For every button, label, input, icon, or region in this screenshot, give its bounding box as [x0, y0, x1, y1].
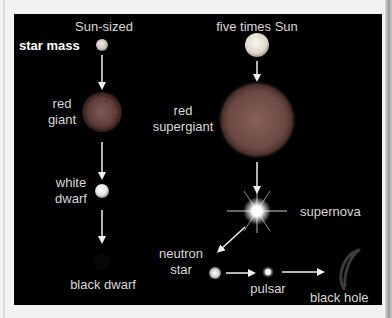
five-times-sun-star-icon: [245, 33, 269, 57]
black-hole-icon: [341, 250, 359, 289]
label-black-dwarf: black dwarf: [58, 277, 148, 292]
label-black-hole: black hole: [310, 290, 369, 305]
supernova-icon: [227, 189, 287, 233]
label-white-dwarf-line1: white: [51, 175, 91, 190]
red-giant-icon: [82, 92, 122, 132]
row-label-star-mass: star mass: [19, 38, 80, 53]
white-dwarf-icon: [95, 184, 109, 198]
label-red-giant-line1: red: [42, 96, 82, 111]
label-neutron-star-line1: neutron: [156, 246, 206, 261]
label-red-giant-line2: giant: [42, 112, 82, 127]
arrow-icon: [220, 227, 245, 250]
frame-left-line: [3, 0, 5, 318]
neutron-star-icon: [209, 267, 221, 279]
frame-right-bar: [385, 0, 392, 318]
red-supergiant-icon: [217, 80, 297, 160]
label-neutron-star-line2: star: [156, 262, 206, 277]
pulsar-icon: [262, 266, 274, 278]
heading-five-times-sun: five times Sun: [207, 19, 307, 34]
black-dwarf-icon: [95, 255, 109, 269]
label-red-supergiant-line1: red: [148, 103, 218, 118]
label-pulsar: pulsar: [243, 281, 293, 296]
heading-sun-sized: Sun-sized: [64, 19, 144, 34]
label-supernova: supernova: [300, 204, 361, 219]
diagram-panel: Sun-sized star mass red giant white dwar…: [14, 14, 382, 305]
label-red-supergiant-line2: supergiant: [148, 119, 218, 134]
sun-sized-star-icon: [96, 39, 108, 51]
label-white-dwarf-line2: dwarf: [51, 191, 91, 206]
